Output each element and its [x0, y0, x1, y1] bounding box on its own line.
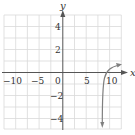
y-axis [60, 10, 65, 130]
x-tick-5: 5 [84, 76, 90, 86]
y-tick--4: −4 [50, 114, 64, 124]
y-axis-label: y [59, 0, 66, 11]
x-tick-10: 10 [106, 76, 118, 86]
x-axis-label: x [130, 67, 135, 78]
y-tick-2: 2 [55, 45, 61, 55]
x-tick-0: 0 [55, 76, 61, 86]
x-tick--5: −5 [31, 76, 45, 86]
x-axis [2, 70, 128, 75]
y-tick-4: 4 [55, 22, 61, 32]
graph: x y −10 −5 0 5 10 4 2 −2 −4 [0, 0, 135, 135]
arrow-down-icon [100, 122, 104, 128]
x-tick--10: −10 [3, 76, 22, 86]
y-tick--2: −2 [50, 91, 63, 101]
